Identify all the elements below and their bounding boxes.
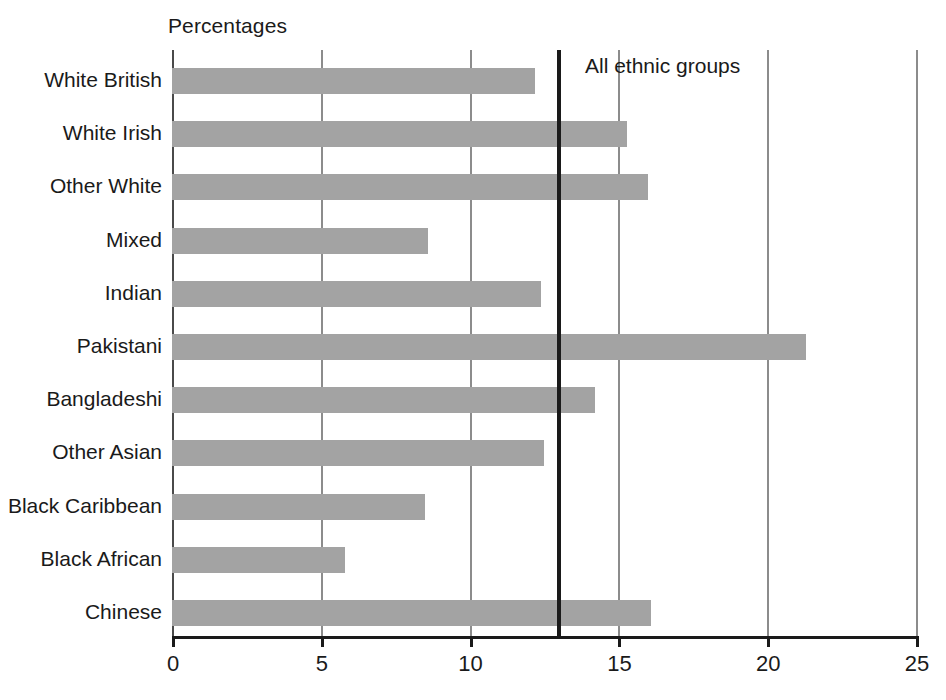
category-label-column: White BritishWhite IrishOther WhiteMixed… xyxy=(0,50,172,636)
category-label: Black African xyxy=(0,546,172,572)
category-label: Mixed xyxy=(0,227,172,253)
category-label: Chinese xyxy=(0,599,172,625)
category-label: White Irish xyxy=(0,120,172,146)
category-label: Other Asian xyxy=(0,439,172,465)
x-tick xyxy=(470,636,473,647)
x-tick-label: 10 xyxy=(458,650,482,678)
bar xyxy=(172,494,425,520)
reference-line xyxy=(557,50,561,636)
gridline-25 xyxy=(916,50,918,636)
x-tick xyxy=(172,636,175,647)
category-label: Black Caribbean xyxy=(0,493,172,519)
category-label: Pakistani xyxy=(0,333,172,359)
reference-line-label: All ethnic groups xyxy=(585,53,740,79)
x-tick-label: 25 xyxy=(905,650,929,678)
x-tick xyxy=(916,636,919,647)
category-label: Other White xyxy=(0,173,172,199)
x-tick xyxy=(321,636,324,647)
axis-title: Percentages xyxy=(168,13,287,39)
category-label: White British xyxy=(0,67,172,93)
bar xyxy=(172,547,345,573)
bar xyxy=(172,174,648,200)
bar xyxy=(172,334,806,360)
bar xyxy=(172,281,541,307)
bar xyxy=(172,440,544,466)
category-label: Indian xyxy=(0,280,172,306)
x-tick-label: 20 xyxy=(756,650,780,678)
bar xyxy=(172,68,535,94)
category-label: Bangladeshi xyxy=(0,386,172,412)
x-tick-label: 0 xyxy=(167,650,179,678)
bar xyxy=(172,387,595,413)
x-tick-label: 15 xyxy=(607,650,631,678)
bar xyxy=(172,228,428,254)
bar-chart: Percentages White BritishWhite IrishOthe… xyxy=(0,0,946,700)
x-tick xyxy=(618,636,621,647)
x-tick xyxy=(767,636,770,647)
plot-area xyxy=(172,50,916,636)
bar xyxy=(172,600,651,626)
x-axis-baseline xyxy=(172,636,918,639)
x-tick-label: 5 xyxy=(316,650,328,678)
